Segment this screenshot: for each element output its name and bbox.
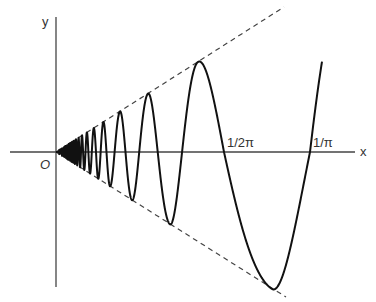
upper-envelope-line	[56, 7, 284, 152]
plot: y x O 1/2π 1/π	[0, 0, 376, 302]
x-axis-label: x	[360, 144, 367, 159]
tick-label-half-pi: 1/2π	[227, 135, 254, 150]
figure-canvas: y x O 1/2π 1/π	[0, 0, 376, 302]
origin-label: O	[40, 157, 50, 172]
function-curve	[56, 62, 322, 290]
y-axis-label: y	[42, 14, 49, 29]
tick-label-pi: 1/π	[313, 135, 333, 150]
